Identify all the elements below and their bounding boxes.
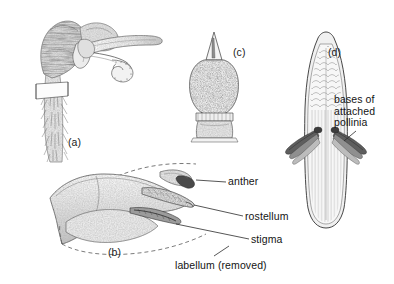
- panel-tag-b: (b): [108, 247, 121, 259]
- annotation-rostellum: rostellum: [245, 211, 289, 223]
- annotation-anther: anther: [228, 176, 258, 188]
- panel-tag-c: (c): [233, 47, 246, 59]
- annotation-bases-of-attached-pollinia: bases of attached pollinia: [334, 94, 375, 129]
- anther-structure: [160, 170, 195, 188]
- moth-leg: [36, 70, 68, 162]
- annotation-stigma: stigma: [251, 234, 283, 246]
- panel-d-drawing: [286, 32, 367, 228]
- pollinium-base-left: [314, 127, 322, 133]
- leader-anther: [196, 180, 226, 182]
- annotation-labellum-removed: labellum (removed): [175, 260, 267, 272]
- panel-tag-d: (d): [328, 47, 341, 59]
- leader-labellum: [214, 246, 229, 256]
- annotation-line-3: pollinia: [334, 117, 375, 129]
- panel-b-drawing: [50, 164, 206, 255]
- panel-c-drawing: [190, 32, 239, 142]
- panel-a-drawing: [36, 21, 162, 162]
- panel-tag-a: (a): [68, 137, 81, 149]
- moth-proboscis: [86, 35, 162, 82]
- illustration-canvas: [0, 0, 394, 284]
- leader-rostellum: [194, 205, 243, 216]
- botanical-figure-plate: (a) (b) (c) (d) bases of attached pollin…: [0, 0, 394, 284]
- leader-stigma: [176, 224, 249, 239]
- annotation-line-1: bases of: [334, 94, 375, 106]
